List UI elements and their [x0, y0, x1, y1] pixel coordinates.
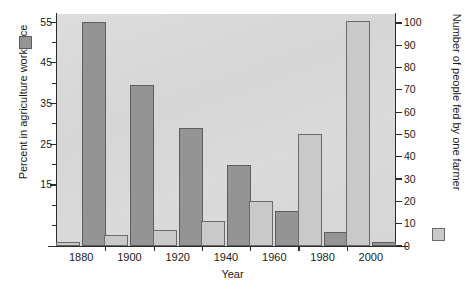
bar-people-fed-2000 [346, 21, 370, 246]
left-tick-label-45: 45 [40, 57, 52, 68]
right-tick-20 [396, 201, 402, 202]
x-axis-title: Year [0, 268, 465, 280]
bar-percent-agriculture-1900 [130, 85, 154, 246]
x-tick-label-1920: 1920 [154, 251, 202, 263]
left-minor-tick-50 [52, 42, 56, 43]
right-tick-0 [396, 245, 402, 246]
right-tick-100 [396, 22, 402, 23]
right-tick-label-80: 80 [404, 62, 416, 73]
legend-swatch-people-fed-by-one-farmer [432, 228, 445, 241]
right-tick-label-10: 10 [404, 218, 416, 229]
bar-percent-agriculture-1920 [179, 128, 203, 246]
x-tick-label-1900: 1900 [105, 251, 153, 263]
right-tick-label-50: 50 [404, 129, 416, 140]
left-minor-tick-40 [52, 83, 56, 84]
right-tick-40 [396, 156, 402, 157]
right-tick-label-30: 30 [404, 174, 416, 185]
x-group-separator-1940 [202, 246, 203, 251]
x-tick-label-1940: 1940 [202, 251, 250, 263]
plot-area [57, 14, 395, 246]
left-axis-line [56, 13, 57, 247]
left-tick-label-55: 55 [40, 17, 52, 28]
chart-figure: 5545352515 0102030405060708090100 188019… [0, 0, 465, 293]
right-tick-30 [396, 178, 402, 179]
right-tick-50 [396, 134, 402, 135]
left-minor-tick-5 [52, 225, 56, 226]
right-tick-label-70: 70 [404, 84, 416, 95]
right-tick-90 [396, 45, 402, 46]
right-tick-label-90: 90 [404, 40, 416, 51]
x-group-separator-2000 [347, 246, 348, 251]
right-tick-label-40: 40 [404, 151, 416, 162]
legend-swatch-percent-in-agriculture [19, 36, 32, 49]
bar-percent-agriculture-1880 [82, 22, 106, 246]
plot-background-sheen [57, 14, 395, 246]
x-group-separator-1960 [250, 246, 251, 251]
left-minor-tick-10 [52, 205, 56, 206]
right-tick-70 [396, 89, 402, 90]
bar-people-fed-1960 [249, 201, 273, 246]
right-axis-title: Number of people fed by one farmer [451, 2, 463, 202]
x-tick-label-1880: 1880 [57, 251, 105, 263]
bar-percent-agriculture-2000 [372, 242, 396, 246]
left-tick-label-25: 25 [40, 139, 52, 150]
x-group-separator-1980 [298, 246, 299, 251]
right-tick-label-100: 100 [404, 17, 422, 28]
bar-people-fed-1900 [104, 235, 128, 246]
x-tick-label-1960: 1960 [250, 251, 298, 263]
bar-percent-agriculture-1960 [275, 211, 299, 246]
x-tick-label-1980: 1980 [298, 251, 346, 263]
right-tick-60 [396, 112, 402, 113]
left-tick-label-15: 15 [40, 179, 52, 190]
x-axis-line [48, 246, 408, 247]
bar-percent-agriculture-1940 [227, 165, 251, 246]
right-tick-80 [396, 67, 402, 68]
bar-people-fed-1880 [56, 242, 80, 246]
bar-people-fed-1980 [298, 134, 322, 246]
right-axis-line [395, 13, 396, 247]
bar-percent-agriculture-1980 [324, 232, 348, 246]
right-tick-label-20: 20 [404, 196, 416, 207]
left-minor-tick-20 [52, 164, 56, 165]
right-tick-label-60: 60 [404, 107, 416, 118]
x-tick-label-2000: 2000 [347, 251, 395, 263]
x-group-separator-1920 [154, 246, 155, 251]
bar-people-fed-1940 [201, 221, 225, 246]
left-tick-label-35: 35 [40, 98, 52, 109]
bar-people-fed-1920 [153, 230, 177, 246]
right-tick-label-0: 0 [404, 241, 410, 252]
right-tick-10 [396, 223, 402, 224]
x-group-separator-1900 [105, 246, 106, 251]
left-minor-tick-30 [52, 123, 56, 124]
